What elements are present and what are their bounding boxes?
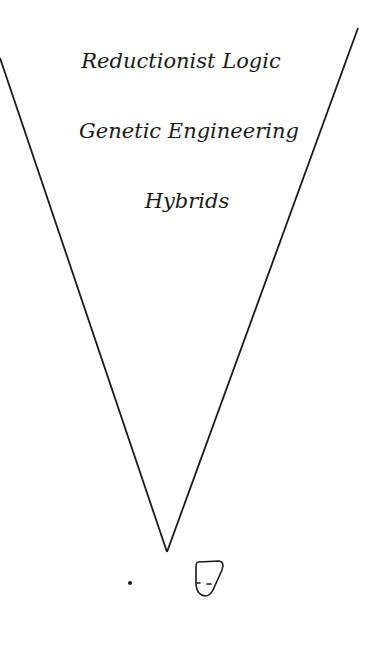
funnel-diagram: [0, 0, 368, 647]
label-hybrids: Hybrids: [3, 189, 368, 213]
label-reductionist-logic: Reductionist Logic: [0, 49, 365, 73]
head-sketch-icon: [196, 561, 223, 596]
funnel-right-edge: [167, 28, 358, 552]
dot-figure: [128, 581, 132, 585]
label-genetic-engineering: Genetic Engineering: [5, 119, 368, 143]
